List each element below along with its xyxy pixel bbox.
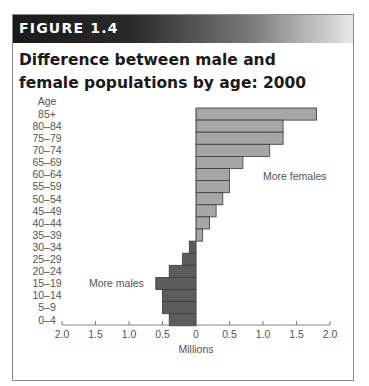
age-label: 30–34 [32,241,61,253]
x-tick-label: 2.0 [55,328,70,340]
bars-group [156,108,317,326]
age-label: 15–19 [32,277,61,289]
x-axis-title: Millions [178,343,213,355]
bar-85+ [196,108,317,120]
age-label: 55–59 [32,180,61,192]
age-label: 60–64 [32,168,61,180]
x-tick-label: 1.5 [289,328,304,340]
bar-10–14 [163,290,197,302]
age-labels: 85+80–8475–7970–7465–6960–6455–5950–5445… [32,108,61,326]
bar-65–69 [196,156,243,168]
bar-0–4 [169,314,196,326]
annotation-more-females: More females [263,170,327,182]
y-axis-title: Age [38,95,57,107]
bar-5–9 [163,302,197,314]
age-label: 5–9 [38,301,56,313]
age-label: 0–4 [38,314,56,326]
x-tick-label: 1.5 [88,328,103,340]
population-difference-chart: 85+80–8475–7970–7465–6960–6455–5950–5445… [0,0,369,386]
bar-55–59 [196,181,230,193]
age-label: 25–29 [32,253,61,265]
annotation-more-males: More males [89,277,144,289]
bar-15–19 [156,277,196,289]
age-label: 85+ [38,108,56,120]
x-tick-label: 0.5 [222,328,237,340]
age-label: 65–69 [32,156,61,168]
bar-35–39 [196,229,203,241]
bar-20–24 [169,265,196,277]
x-tick-label: 0.5 [155,328,170,340]
x-tick-label: 1.0 [122,328,137,340]
age-label: 50–54 [32,193,61,205]
x-tick-label: 1.0 [256,328,271,340]
age-label: 40–44 [32,217,61,229]
bar-25–29 [183,253,196,265]
age-label: 70–74 [32,144,61,156]
bar-80–84 [196,120,283,132]
x-tick-label: 0 [193,328,199,340]
age-label: 45–49 [32,205,61,217]
age-label: 20–24 [32,265,61,277]
bar-60–64 [196,169,230,181]
age-label: 10–14 [32,289,61,301]
bar-30–34 [189,241,196,253]
bar-40–44 [196,217,209,229]
bar-70–74 [196,144,270,156]
bar-50–54 [196,193,223,205]
bar-45–49 [196,205,216,217]
age-label: 35–39 [32,229,61,241]
bar-75–79 [196,132,283,144]
x-axis: 2.01.51.00.500.51.01.52.0 [55,108,338,340]
age-label: 80–84 [32,120,61,132]
x-tick-label: 2.0 [323,328,338,340]
age-label: 75–79 [32,132,61,144]
